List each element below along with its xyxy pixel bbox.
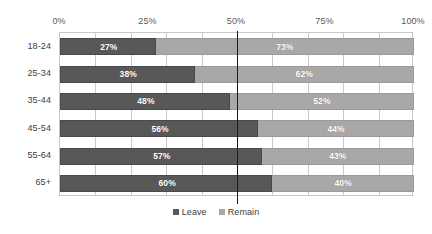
bar-segment-remain[interactable]: 43% — [262, 148, 414, 165]
bar-value-label-leave: 27% — [100, 42, 117, 52]
bar-value-label-remain: 43% — [329, 151, 346, 161]
bar-value-label-remain: 52% — [313, 96, 330, 106]
bar-segment-leave[interactable]: 27% — [60, 38, 156, 55]
bar-segment-remain[interactable]: 62% — [195, 66, 414, 83]
bar-value-label-remain: 62% — [296, 69, 313, 79]
y-tick-65plus: 65+ — [35, 177, 51, 187]
bar-value-label-leave: 38% — [120, 69, 137, 79]
x-tick-25: 25% — [138, 16, 156, 26]
bar-segment-leave[interactable]: 48% — [60, 93, 230, 110]
legend-swatch-remain-icon — [219, 209, 225, 215]
stacked-bar-chart: 0% 25% 50% 75% 100% 18-24 25-34 35-44 45… — [0, 0, 432, 234]
bar-segment-remain[interactable]: 40% — [272, 175, 414, 192]
x-tick-50: 50% — [227, 16, 245, 26]
bar-value-label-leave: 48% — [137, 96, 154, 106]
bar-segment-leave[interactable]: 38% — [60, 66, 195, 83]
bar-segment-leave[interactable]: 57% — [60, 148, 262, 165]
plot-area: 27%73%38%62%48%52%56%44%57%43%60%40% — [59, 32, 413, 196]
bar-segment-remain[interactable]: 73% — [156, 38, 414, 55]
bar-segment-leave[interactable]: 60% — [60, 175, 272, 192]
x-tick-0: 0% — [52, 16, 65, 26]
x-tick-75: 75% — [315, 16, 333, 26]
bar-row: 56%44% — [60, 120, 412, 137]
bar-value-label-leave: 57% — [153, 151, 170, 161]
x-axis-tick-labels: 0% 25% 50% 75% 100% — [0, 16, 432, 30]
bar-value-label-remain: 44% — [327, 124, 344, 134]
bar-value-label-remain: 73% — [276, 42, 293, 52]
y-tick-45-54: 45-54 — [27, 123, 51, 133]
legend-item-remain[interactable]: Remain — [219, 207, 260, 217]
y-axis-category-labels: 18-24 25-34 35-44 45-54 55-64 65+ — [0, 32, 55, 196]
bar-segment-remain[interactable]: 52% — [230, 93, 414, 110]
legend-item-leave[interactable]: Leave — [173, 207, 207, 217]
y-tick-55-64: 55-64 — [27, 150, 51, 160]
bar-row: 27%73% — [60, 38, 412, 55]
y-tick-18-24: 18-24 — [27, 41, 51, 51]
legend-label-remain: Remain — [228, 207, 260, 217]
bar-row: 38%62% — [60, 66, 412, 83]
legend-swatch-leave-icon — [173, 209, 179, 215]
bar-value-label-remain: 40% — [335, 178, 352, 188]
y-tick-25-34: 25-34 — [27, 68, 51, 78]
x-tick-100: 100% — [401, 16, 424, 26]
fifty-percent-threshold-line — [237, 31, 238, 204]
y-tick-35-44: 35-44 — [27, 95, 51, 105]
bar-value-label-leave: 60% — [159, 178, 176, 188]
bar-row: 48%52% — [60, 93, 412, 110]
bar-rows: 27%73%38%62%48%52%56%44%57%43%60%40% — [60, 33, 412, 195]
bar-value-label-leave: 56% — [151, 124, 168, 134]
bar-row: 60%40% — [60, 175, 412, 192]
bar-row: 57%43% — [60, 148, 412, 165]
legend-label-leave: Leave — [182, 207, 207, 217]
chart-legend: Leave Remain — [0, 207, 432, 217]
bar-segment-remain[interactable]: 44% — [258, 120, 414, 137]
bar-segment-leave[interactable]: 56% — [60, 120, 258, 137]
